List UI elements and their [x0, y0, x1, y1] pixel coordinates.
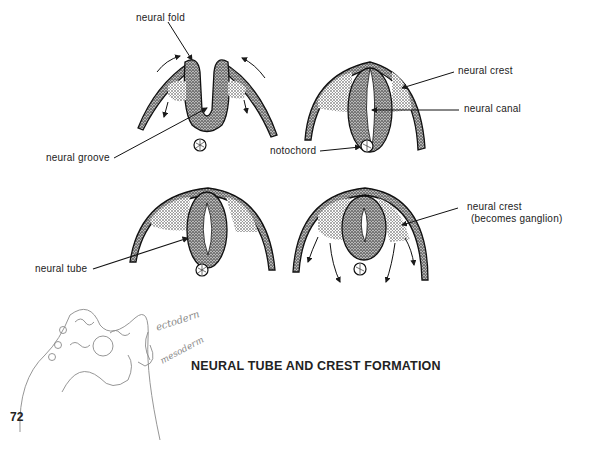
stage-neural-tube	[93, 188, 275, 276]
figure-title: NEURAL TUBE AND CREST FORMATION	[191, 359, 441, 373]
label-neural-crest-top: neural crest	[458, 65, 513, 76]
label-neural-tube: neural tube	[35, 263, 87, 274]
label-neural-canal: neural canal	[464, 103, 521, 114]
page-number: 72	[10, 410, 23, 424]
label-notochord: notochord	[270, 145, 316, 156]
label-neural-crest-bottom: neural crest	[467, 201, 522, 212]
stage-neural-groove	[114, 22, 277, 158]
pencil-sketch	[20, 309, 160, 440]
label-becomes-ganglion: (becomes ganglion)	[471, 213, 562, 224]
label-neural-fold: neural fold	[136, 12, 185, 23]
label-neural-groove: neural groove	[46, 152, 110, 163]
stage-neural-canal	[305, 62, 459, 152]
stage-neural-crest-ganglion	[293, 188, 458, 282]
